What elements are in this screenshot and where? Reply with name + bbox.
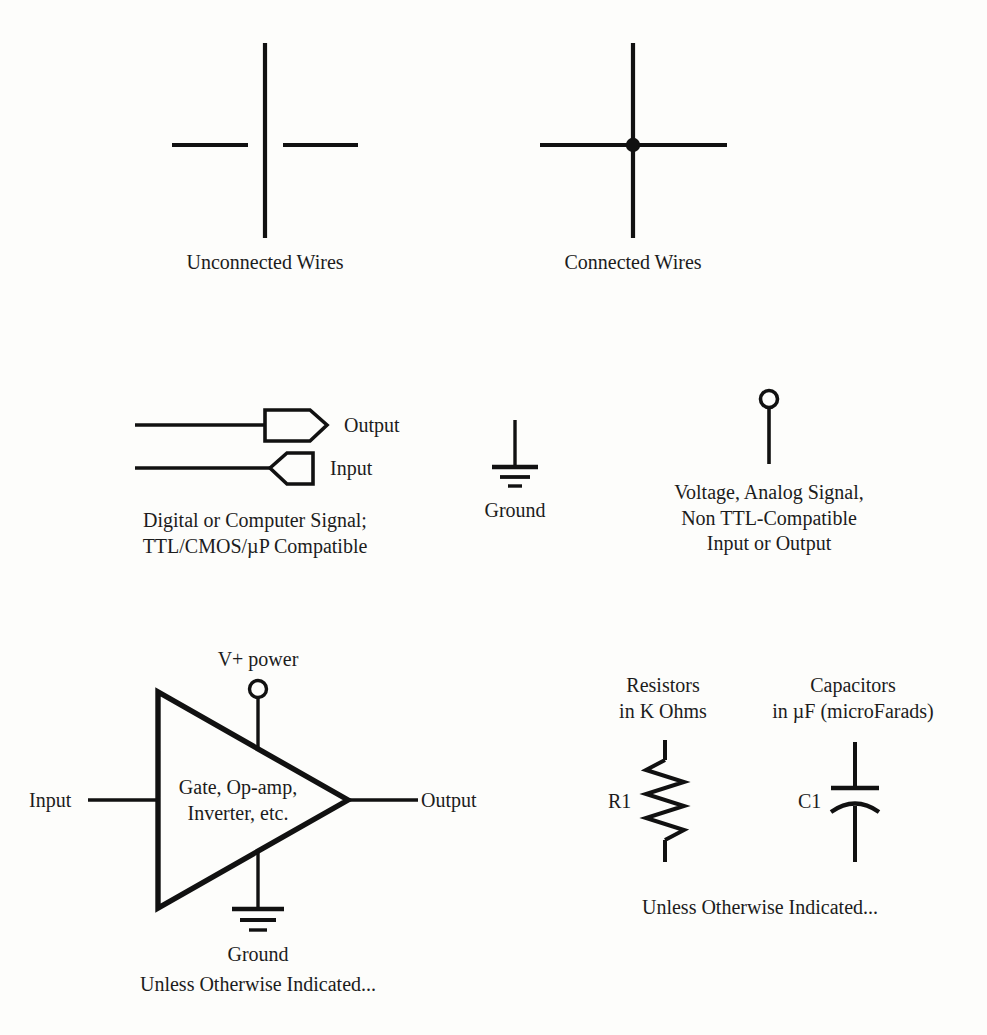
analog-signal-caption-line-3: Input or Output <box>674 531 864 557</box>
digital-signal-caption: Digital or Computer Signal; TTL/CMOS/µP … <box>143 508 368 559</box>
ground-symbol <box>492 420 538 486</box>
amplifier-body-caption: Gate, Op-amp, Inverter, etc. <box>179 775 297 826</box>
resistor-heading-line-2: in K Ohms <box>619 699 707 725</box>
resistor-symbol <box>646 740 684 862</box>
analog-signal-caption-line-2: Non TTL-Compatible <box>674 506 864 532</box>
analog-signal-node-symbol <box>761 391 778 465</box>
amplifier-input-label: Input <box>29 788 71 812</box>
capacitor-heading-line-2: in µF (microFarads) <box>772 699 934 725</box>
digital-input-label: Input <box>330 456 372 480</box>
connected-wires-caption: Connected Wires <box>564 250 701 274</box>
digital-input-flag-symbol <box>135 453 313 484</box>
ground-caption: Ground <box>484 498 545 522</box>
digital-signal-caption-line-1: Digital or Computer Signal; <box>143 508 368 534</box>
amplifier-ground-caption: Ground <box>227 942 288 966</box>
capacitor-heading-line-1: Capacitors <box>772 673 934 699</box>
analog-signal-caption-line-1: Voltage, Analog Signal, <box>674 480 864 506</box>
amplifier-ground-pin <box>232 853 284 930</box>
digital-signal-caption-line-2: TTL/CMOS/µP Compatible <box>143 534 368 560</box>
capacitor-heading: Capacitors in µF (microFarads) <box>772 673 934 724</box>
amplifier-body-line-1: Gate, Op-amp, <box>179 775 297 801</box>
amplifier-power-label: V+ power <box>218 647 299 671</box>
amplifier-note: Unless Otherwise Indicated... <box>140 972 376 996</box>
amplifier-body-line-2: Inverter, etc. <box>179 801 297 827</box>
capacitor-symbol <box>831 742 879 862</box>
digital-output-flag-symbol <box>135 410 327 441</box>
resistor-heading-line-1: Resistors <box>619 673 707 699</box>
analog-signal-caption: Voltage, Analog Signal, Non TTL-Compatib… <box>674 480 864 557</box>
capacitor-designator: C1 <box>798 789 821 813</box>
unconnected-wires-caption: Unconnected Wires <box>186 250 343 274</box>
amplifier-output-label: Output <box>421 788 477 812</box>
resistor-designator: R1 <box>608 789 631 813</box>
unconnected-wires-symbol <box>172 43 358 238</box>
passives-note: Unless Otherwise Indicated... <box>642 895 878 919</box>
resistor-heading: Resistors in K Ohms <box>619 673 707 724</box>
schematic-legend-sheet: Unconnected Wires Connected Wires Output… <box>0 0 987 1035</box>
amplifier-power-pin <box>250 681 267 748</box>
digital-output-label: Output <box>344 413 400 437</box>
connected-wires-symbol <box>540 43 727 238</box>
